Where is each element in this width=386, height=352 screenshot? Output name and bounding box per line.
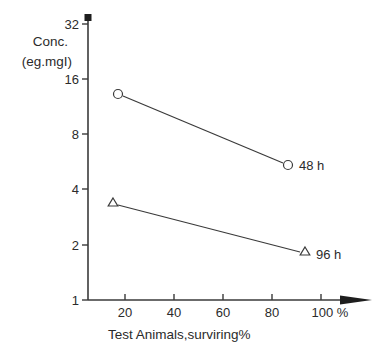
chart-svg: 32 16 8 4 2 1 Conc. (eg.mgI) 20 40 60 80… — [0, 0, 386, 352]
y-tick-label-16: 16 — [65, 72, 79, 87]
series-96h-point-1 — [108, 198, 118, 206]
y-tick-label-32: 32 — [65, 17, 79, 32]
y-tick-label-8: 8 — [72, 127, 79, 142]
series-96h-point-2 — [300, 247, 310, 255]
chart-container: 32 16 8 4 2 1 Conc. (eg.mgI) 20 40 60 80… — [0, 0, 386, 352]
x-axis-arrow-icon — [340, 296, 372, 305]
series-48h-point-2 — [284, 161, 293, 170]
y-tick-label-1: 1 — [72, 293, 79, 308]
y-tick-label-4: 4 — [72, 182, 79, 197]
y-axis-arrow-icon — [85, 14, 92, 21]
x-tick-label-20: 20 — [118, 305, 132, 320]
series-48h: 48 h — [114, 90, 325, 174]
y-tick-label-2: 2 — [72, 238, 79, 253]
y-axis-title-line2: (eg.mgI) — [22, 54, 72, 69]
y-axis-title-line1: Conc. — [33, 34, 68, 49]
series-96h-line — [118, 205, 300, 252]
x-tick-label-80: 80 — [265, 305, 279, 320]
x-tick-label-40: 40 — [167, 305, 181, 320]
series-48h-line — [123, 96, 283, 163]
series-48h-point-1 — [114, 90, 123, 99]
x-tick-label-100: 100 % — [312, 305, 349, 320]
x-axis-title: Test Animals,surviring% — [108, 327, 251, 342]
series-48h-label: 48 h — [299, 158, 324, 173]
series-96h: 96 h — [108, 198, 341, 262]
x-tick-label-60: 60 — [216, 305, 230, 320]
series-96h-label: 96 h — [316, 247, 341, 262]
